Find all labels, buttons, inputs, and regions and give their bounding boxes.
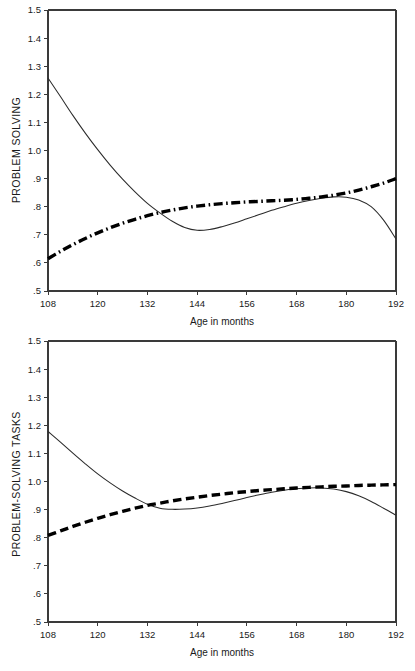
x-tick-label: 132 (139, 629, 155, 640)
x-tick-label: 156 (239, 629, 255, 640)
x-tick-label: 192 (388, 629, 404, 640)
series-observed-line (48, 431, 396, 515)
y-tick-label: 1.5 (28, 4, 41, 15)
x-tick-label: 180 (338, 629, 354, 640)
x-tick-label: 192 (388, 298, 404, 309)
y-tick-label: .9 (33, 173, 41, 184)
series-observed-line (48, 78, 396, 239)
y-tick-label: .9 (33, 504, 41, 515)
x-tick-label: 120 (90, 298, 106, 309)
x-tick-label: 132 (139, 298, 155, 309)
y-tick-label: .5 (33, 285, 41, 296)
y-tick-label: .5 (33, 616, 41, 627)
y-axis-ticks: .5.6.7.8.91.01.11.21.31.41.5 (28, 4, 48, 296)
x-tick-label: 168 (289, 629, 305, 640)
y-tick-label: .7 (33, 229, 41, 240)
y-tick-label: 1.2 (28, 89, 41, 100)
chart-bottom-svg: PROBLEM-SOLVING TASKS .5.6.7.8.91.01.11.… (0, 336, 415, 671)
y-tick-label: 1.4 (28, 33, 41, 44)
y-tick-label: .6 (33, 588, 41, 599)
x-axis-ticks: 108120132144156168180192 (40, 291, 404, 309)
y-axis-title: PROBLEM-SOLVING TASKS (10, 411, 22, 557)
chart-problem-solving-tasks: PROBLEM-SOLVING TASKS .5.6.7.8.91.01.11.… (0, 336, 415, 671)
x-axis-ticks: 108120132144156168180192 (40, 622, 404, 640)
series-predicted-line (48, 485, 396, 536)
y-axis-ticks: .5.6.7.8.91.01.11.21.31.41.5 (28, 336, 48, 627)
x-tick-label: 144 (189, 298, 205, 309)
x-tick-label: 108 (40, 298, 56, 309)
y-tick-label: 1.0 (28, 145, 41, 156)
y-tick-label: 1.5 (28, 336, 41, 346)
y-tick-label: 1.4 (28, 364, 41, 375)
series-predicted-line (48, 179, 396, 259)
x-tick-label: 168 (289, 298, 305, 309)
chart-problem-solving: PROBLEM SOLVING .5.6.7.8.91.01.11.21.31.… (0, 0, 415, 335)
y-tick-label: 1.2 (28, 420, 41, 431)
y-axis-title-group: PROBLEM-SOLVING TASKS (10, 411, 22, 557)
y-axis-title: PROBLEM SOLVING (10, 97, 22, 203)
x-tick-label: 144 (189, 629, 205, 640)
y-tick-label: .8 (33, 532, 41, 543)
y-tick-label: 1.3 (28, 61, 41, 72)
y-tick-label: 1.1 (28, 448, 41, 459)
y-tick-label: 1.1 (28, 117, 41, 128)
figure-page: PROBLEM SOLVING .5.6.7.8.91.01.11.21.31.… (0, 0, 415, 671)
x-axis-title: Age in months (190, 316, 254, 327)
y-tick-label: 1.0 (28, 476, 41, 487)
y-tick-label: .7 (33, 560, 41, 571)
x-tick-label: 120 (90, 629, 106, 640)
y-tick-label: .8 (33, 201, 41, 212)
x-tick-label: 108 (40, 629, 56, 640)
y-axis-title-group: PROBLEM SOLVING (10, 97, 22, 203)
y-tick-label: 1.3 (28, 392, 41, 403)
chart-top-svg: PROBLEM SOLVING .5.6.7.8.91.01.11.21.31.… (0, 0, 415, 335)
y-tick-label: .6 (33, 257, 41, 268)
x-axis-title: Age in months (190, 647, 254, 658)
x-tick-label: 156 (239, 298, 255, 309)
x-tick-label: 180 (338, 298, 354, 309)
